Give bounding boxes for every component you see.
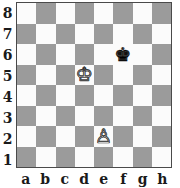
square-c5[interactable] [56,65,75,86]
square-e1[interactable] [94,147,113,168]
square-c4[interactable] [56,85,75,106]
square-b6[interactable] [36,44,55,65]
square-d1[interactable] [75,147,94,168]
square-d4[interactable] [75,85,94,106]
rank-label-1: 1 [0,149,15,170]
square-g6[interactable] [133,44,152,65]
square-g7[interactable] [133,24,152,45]
square-b8[interactable] [36,3,55,24]
square-c3[interactable] [56,106,75,127]
square-d6[interactable] [75,44,94,65]
square-g4[interactable] [133,85,152,106]
square-c7[interactable] [56,24,75,45]
square-c8[interactable] [56,3,75,24]
square-a3[interactable] [17,106,36,127]
file-label-d: d [75,170,95,188]
file-label-a: a [16,170,36,188]
square-d7[interactable] [75,24,94,45]
rank-label-3: 3 [0,107,15,128]
square-c2[interactable] [56,126,75,147]
square-f2[interactable] [113,126,132,147]
square-g2[interactable] [133,126,152,147]
chessboard[interactable]: ♚♔♙ [16,2,172,168]
file-label-e: e [94,170,114,188]
square-e3[interactable] [94,106,113,127]
square-a4[interactable] [17,85,36,106]
square-f1[interactable] [113,147,132,168]
square-d8[interactable] [75,3,94,24]
square-h2[interactable] [152,126,171,147]
square-f8[interactable] [113,3,132,24]
square-d3[interactable] [75,106,94,127]
square-g3[interactable] [133,106,152,127]
rank-label-6: 6 [0,44,15,65]
square-e8[interactable] [94,3,113,24]
square-h5[interactable] [152,65,171,86]
square-h4[interactable] [152,85,171,106]
square-a7[interactable] [17,24,36,45]
square-a6[interactable] [17,44,36,65]
rank-label-4: 4 [0,86,15,107]
square-a5[interactable] [17,65,36,86]
square-h6[interactable] [152,44,171,65]
square-b1[interactable] [36,147,55,168]
rank-label-2: 2 [0,128,15,149]
chess-board-figure: 87654321 ♚♔♙ abcdefgh [0,0,180,188]
square-f7[interactable] [113,24,132,45]
rank-label-5: 5 [0,65,15,86]
file-label-b: b [36,170,56,188]
square-a2[interactable] [17,126,36,147]
square-e4[interactable] [94,85,113,106]
square-g8[interactable] [133,3,152,24]
square-c1[interactable] [56,147,75,168]
file-label-f: f [114,170,134,188]
file-label-h: h [153,170,173,188]
square-h3[interactable] [152,106,171,127]
square-f6[interactable]: ♚ [113,44,132,65]
file-label-g: g [133,170,153,188]
square-d5[interactable]: ♔ [75,65,94,86]
square-h1[interactable] [152,147,171,168]
square-e5[interactable] [94,65,113,86]
file-label-c: c [55,170,75,188]
square-h7[interactable] [152,24,171,45]
square-d2[interactable] [75,126,94,147]
rank-label-column: 87654321 [0,2,15,170]
piece-black-king-f6[interactable]: ♚ [114,44,131,63]
rank-label-8: 8 [0,2,15,23]
square-b5[interactable] [36,65,55,86]
square-h8[interactable] [152,3,171,24]
square-b7[interactable] [36,24,55,45]
piece-white-pawn-e2[interactable]: ♙ [95,126,112,145]
square-f5[interactable] [113,65,132,86]
square-g1[interactable] [133,147,152,168]
rank-label-7: 7 [0,23,15,44]
square-b3[interactable] [36,106,55,127]
square-c6[interactable] [56,44,75,65]
square-e2[interactable]: ♙ [94,126,113,147]
square-e6[interactable] [94,44,113,65]
square-g5[interactable] [133,65,152,86]
square-f3[interactable] [113,106,132,127]
square-a1[interactable] [17,147,36,168]
square-e7[interactable] [94,24,113,45]
file-label-row: abcdefgh [16,170,172,188]
square-a8[interactable] [17,3,36,24]
piece-white-king-d5[interactable]: ♔ [76,65,93,84]
square-f4[interactable] [113,85,132,106]
square-b4[interactable] [36,85,55,106]
square-b2[interactable] [36,126,55,147]
